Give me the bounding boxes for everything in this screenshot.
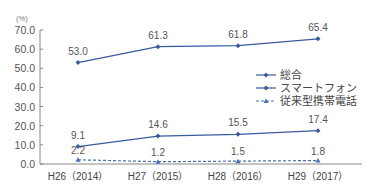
data-label: 61.8 — [228, 29, 248, 40]
legend-label: 従来型携帯電話 — [280, 94, 357, 108]
series-line — [78, 131, 318, 147]
x-tick-label: H29（2017） — [288, 171, 349, 182]
data-label: 61.3 — [148, 30, 168, 41]
line-chart: 0.010.020.030.040.050.060.070.0(%)H26（20… — [0, 0, 368, 186]
triangle-marker-icon — [316, 158, 321, 163]
data-label: 2.2 — [71, 145, 85, 156]
diamond-marker-icon — [316, 36, 321, 41]
y-tick-label: 70.0 — [15, 24, 36, 36]
series-line — [78, 39, 318, 63]
data-label: 9.1 — [71, 130, 85, 141]
x-tick-label: H27（2015） — [128, 171, 189, 182]
diamond-marker-icon — [236, 43, 241, 48]
chart-canvas: 0.010.020.030.040.050.060.070.0(%)H26（20… — [0, 0, 368, 186]
data-label: 1.5 — [231, 146, 245, 157]
data-label: 53.0 — [68, 46, 88, 57]
legend-diamond-icon — [264, 86, 269, 91]
legend-label: スマートフォン — [280, 82, 357, 95]
diamond-marker-icon — [316, 128, 321, 133]
data-label: 1.2 — [151, 147, 165, 158]
series-2: 2.21.21.51.8 — [71, 145, 325, 164]
y-tick-label: 50.0 — [15, 62, 36, 74]
diamond-marker-icon — [236, 132, 241, 137]
data-label: 65.4 — [308, 22, 328, 33]
series-0: 53.061.361.865.4 — [68, 22, 328, 65]
y-tick-label: 0.0 — [20, 158, 35, 170]
legend: 総合スマートフォン従来型携帯電話 — [256, 68, 357, 108]
data-label: 17.4 — [308, 114, 328, 125]
y-unit-label: (%) — [16, 14, 28, 23]
diamond-marker-icon — [156, 44, 161, 49]
data-label: 1.8 — [311, 146, 325, 157]
y-tick-label: 30.0 — [15, 101, 36, 113]
data-label: 14.6 — [148, 119, 168, 130]
series-line — [78, 160, 318, 162]
legend-diamond-icon — [264, 73, 269, 78]
y-tick-label: 60.0 — [15, 43, 36, 55]
x-tick-label: H26（2014） — [48, 171, 109, 182]
series-1: 9.114.615.517.4 — [71, 114, 328, 149]
data-label: 15.5 — [228, 117, 248, 128]
y-tick-label: 40.0 — [15, 81, 36, 93]
y-tick-label: 10.0 — [15, 139, 36, 151]
legend-label: 総合 — [280, 68, 302, 82]
diamond-marker-icon — [156, 134, 161, 139]
x-tick-label: H28（2016） — [208, 171, 269, 182]
diamond-marker-icon — [76, 60, 81, 65]
y-tick-label: 20.0 — [15, 120, 36, 132]
